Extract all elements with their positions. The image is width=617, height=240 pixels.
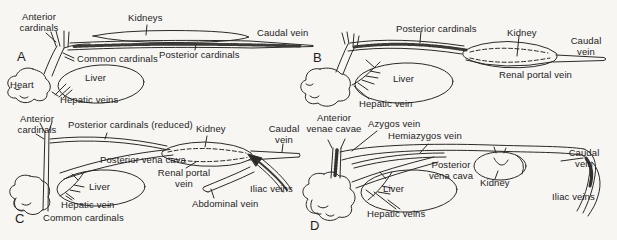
renal-portal-vein-outline [466, 60, 552, 66]
label-posterior-cardinals-b: Posterior cardinals [396, 24, 477, 35]
panel-letter-d: D [310, 218, 319, 233]
label-anterior-cardinals-a: Anterior cardinals [10, 12, 68, 33]
anterior-cardinals-leader-line [46, 33, 56, 42]
label-caudal-vein-d: Caudal vein [560, 148, 608, 169]
kidney-pointer-line [517, 36, 519, 56]
posterior-cardinal-stipple [74, 44, 300, 46]
hemiazygos-leader-line [420, 144, 428, 153]
label-renal-portal-vein-c: Renal portal vein [152, 168, 216, 189]
anterior-cardinal-vessel [336, 32, 359, 74]
label-hepatic-veins-a: Hepatic veins [60, 95, 118, 106]
label-iliac-veins-d: Iliac veins [552, 192, 595, 203]
heart-outline [303, 172, 355, 220]
label-posterior-cardinals-reduced-c: Posterior cardinals (reduced) [68, 120, 193, 131]
label-hepatic-vein-c: Hepatic vein [61, 200, 114, 211]
panel-letter-c: C [15, 211, 24, 226]
label-kidney-c: Kidney [196, 124, 226, 135]
label-liver-c: Liver [89, 182, 110, 193]
heart-detail [311, 200, 334, 216]
heart-detail [306, 84, 319, 98]
heart-detail [14, 198, 31, 211]
kidneys-pointer-line [146, 25, 147, 35]
label-heart-a: Heart [10, 80, 34, 91]
label-liver-d: Liver [383, 184, 404, 195]
label-hepatic-veins-d: Hepatic veins [367, 209, 425, 220]
label-posterior-cardinals-a: Posterior cardinals [159, 50, 240, 61]
anterior-cardinal-vessel [40, 122, 52, 211]
label-posterior-vena-cava-c: Posterior vena cava [100, 155, 186, 166]
label-anterior-venae-cavae-d: Anterior venae cavae [300, 113, 368, 134]
label-posterior-vena-cava-d: Posterior vena cava [420, 160, 482, 181]
label-anterior-cardinals-c: Anterior cardinals [8, 114, 66, 135]
kidney-segments [470, 48, 550, 62]
common-cardinals-leader-line [63, 53, 74, 61]
label-kidney-b: Kidney [507, 28, 537, 39]
label-hepatic-vein-b: Hepatic vein [359, 99, 412, 110]
anterior-venae-cavae-shading [335, 150, 337, 176]
label-iliac-veins-c: Iliac veins [250, 184, 293, 195]
label-common-cardinals-a: Common cardinals [77, 54, 158, 65]
kidney-pointer-line [205, 136, 207, 147]
label-common-cardinals-c: Common cardinals [43, 213, 124, 224]
panel-letter-a: A [17, 49, 26, 64]
label-kidneys-a: Kidneys [128, 13, 163, 24]
label-abdominal-vein-c: Abdominal vein [192, 199, 258, 210]
posterior-cardinals-pointer-line [105, 133, 107, 139]
label-liver-b: Liver [393, 74, 414, 85]
venous-system-figure: Anterior cardinals Kidneys Caudal vein A… [0, 0, 617, 240]
posterior-cardinals-reduced-vessel [50, 137, 167, 149]
label-renal-portal-vein-b: Renal portal vein [499, 70, 572, 81]
azygos-vein-vessel [340, 144, 584, 160]
label-hemiazygos-vein-d: Hemiazygos vein [388, 131, 462, 142]
hepatic-vein-branches [352, 60, 380, 90]
panel-letter-b: B [313, 50, 322, 65]
label-caudal-vein-b: Caudal vein [564, 36, 608, 57]
label-azygos-vein-d: Azygos vein [368, 119, 420, 130]
label-caudal-vein-a: Caudal vein [257, 28, 308, 39]
label-kidney-d: Kidney [480, 178, 510, 189]
label-liver-a: Liver [85, 73, 106, 84]
